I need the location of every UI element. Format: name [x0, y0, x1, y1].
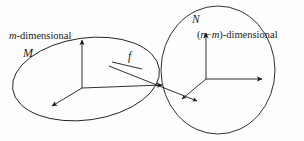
- target-manifold-ellipse: [161, 6, 275, 134]
- label-map-f: f: [128, 51, 131, 63]
- diagram-canvas: [0, 0, 304, 141]
- map-arrow-f: [109, 66, 197, 101]
- label-m-dimensional: m-dimensional: [9, 31, 71, 42]
- label-m-suffix: -dimensional: [17, 30, 72, 41]
- map-arrow-tick: [112, 62, 142, 69]
- label-m-variable: m: [9, 30, 17, 41]
- source-frame-depth-axis: [52, 88, 82, 106]
- source-frame-horizontal-axis: [82, 85, 162, 88]
- manifold-map-figure: m-dimensional M f N (n−m)-dimensional: [0, 0, 304, 141]
- label-manifold-source: M: [23, 47, 33, 59]
- label-manifold-target: N: [192, 14, 200, 26]
- label-nm-suffix: -dimensional: [223, 29, 278, 40]
- label-nm-dimensional: (n−m)-dimensional: [197, 30, 278, 41]
